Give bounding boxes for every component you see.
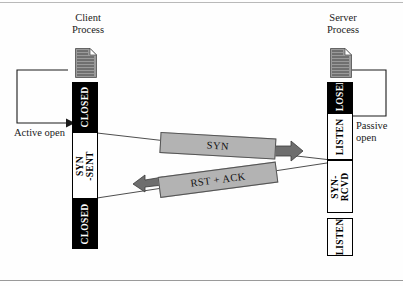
client-state-closed-1-label: CLOSED (80, 87, 90, 128)
document-icon (330, 48, 352, 78)
server-caption-line1: Server (329, 12, 356, 23)
server-state-syn-rcvd: SYN- RCVD (327, 160, 353, 213)
server-state-closed-label: CLOSED (335, 82, 345, 113)
server-state-listen-1-label: LISTEN (335, 118, 345, 155)
server-state-listen-1: LISTEN (327, 113, 353, 160)
client-state-closed-2-label: CLOSED (80, 204, 90, 245)
active-open-hook (17, 70, 75, 128)
server-process-caption: Server Process (312, 12, 374, 35)
tcp-handshake-diagram: Client Process CLOSED SYN -SENT CLOSED (0, 0, 403, 286)
syn-arrowhead-icon (273, 141, 303, 161)
server-state-closed: CLOSED (327, 82, 353, 113)
server-state-syn-rcvd-label: SYN- RCVD (330, 172, 350, 201)
client-state-syn-sent: SYN -SENT (72, 132, 98, 199)
client-state-syn-sent-label: SYN -SENT (75, 151, 95, 180)
active-open-label: Active open (14, 127, 65, 139)
server-caption-line2: Process (312, 24, 374, 36)
document-icon (75, 48, 97, 78)
passive-open-label: Passive open (356, 120, 388, 144)
client-caption-line1: Client (75, 12, 101, 23)
message-banner-syn-label: SYN (207, 140, 230, 152)
server-state-listen-2-label: LISTEN (335, 219, 345, 256)
message-banner-rst-ack-label: RST + ACK (190, 171, 246, 189)
client-process-caption: Client Process (58, 12, 118, 35)
client-state-closed-1: CLOSED (72, 82, 98, 132)
client-state-closed-2: CLOSED (72, 199, 98, 249)
client-caption-line2: Process (58, 24, 118, 36)
server-state-listen-2: LISTEN (327, 218, 353, 256)
